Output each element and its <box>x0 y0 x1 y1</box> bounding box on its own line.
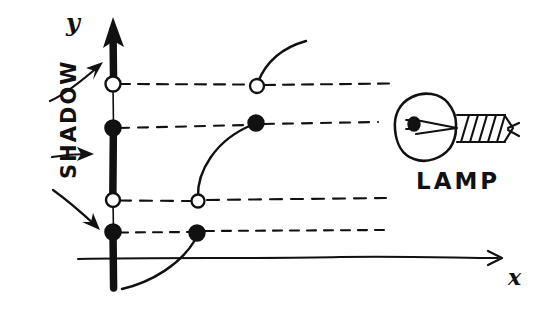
y-axis <box>103 17 124 288</box>
sketch-canvas: SHADOW LAMP y x <box>0 0 548 312</box>
y-axis-label: y <box>66 8 80 37</box>
curve-middle-endpoint-filled <box>248 115 264 131</box>
lamp-screw-tip <box>505 116 519 141</box>
light-ray-4 <box>119 230 386 233</box>
shadow-segment-middle <box>113 128 114 200</box>
axis-point-3 <box>106 193 120 207</box>
shadow-arrow-lower <box>53 190 100 230</box>
x-axis-label: x <box>508 264 521 290</box>
x-axis <box>78 251 502 265</box>
x-axis-line <box>78 257 498 259</box>
axis-point-4 <box>105 224 121 240</box>
light-rays <box>119 84 390 233</box>
curve-middle <box>198 125 252 197</box>
lamp-filament <box>406 117 420 131</box>
lamp-label: LAMP <box>416 168 500 194</box>
lamp-beam-cone <box>416 120 457 134</box>
lamp-drawing <box>395 94 519 161</box>
curve-lower <box>122 240 195 289</box>
axis-point-1 <box>106 77 121 92</box>
curve-lower-endpoint-filled <box>189 225 205 241</box>
curve-upper-endpoint-open <box>250 79 264 93</box>
curve-upper <box>258 41 306 82</box>
lamp-bulb <box>395 94 456 161</box>
shadow-label: SHADOW <box>57 61 81 179</box>
curves <box>122 41 306 289</box>
diagram-svg <box>0 0 548 312</box>
axis-point-2 <box>105 120 121 136</box>
light-ray-3 <box>119 198 386 201</box>
curve-middle-endpoint-open <box>192 195 205 208</box>
lamp-screw-threads <box>461 115 505 142</box>
